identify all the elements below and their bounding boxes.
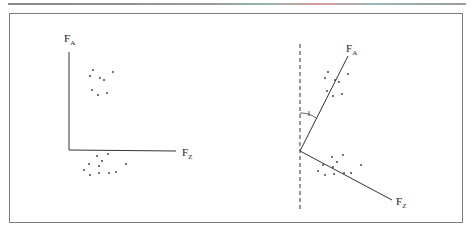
angle-arc — [300, 113, 316, 118]
right-label-fz: FZ — [396, 195, 406, 210]
left-upper-cluster — [89, 69, 114, 96]
left-axis-fz — [69, 150, 176, 151]
factor-diagram: FA FZ FA FZ — [0, 0, 475, 234]
left-lower-cluster — [83, 153, 127, 176]
right-axis-fa — [300, 56, 348, 151]
right-label-fa: FA — [346, 42, 357, 57]
left-label-fa: FA — [64, 32, 75, 47]
right-upper-cluster — [324, 71, 349, 97]
right-panel: FA FZ — [300, 42, 406, 212]
left-label-fz: FZ — [182, 146, 192, 161]
right-lower-cluster — [317, 154, 362, 176]
left-panel: FA FZ — [64, 32, 192, 176]
right-axis-fz — [300, 151, 392, 200]
